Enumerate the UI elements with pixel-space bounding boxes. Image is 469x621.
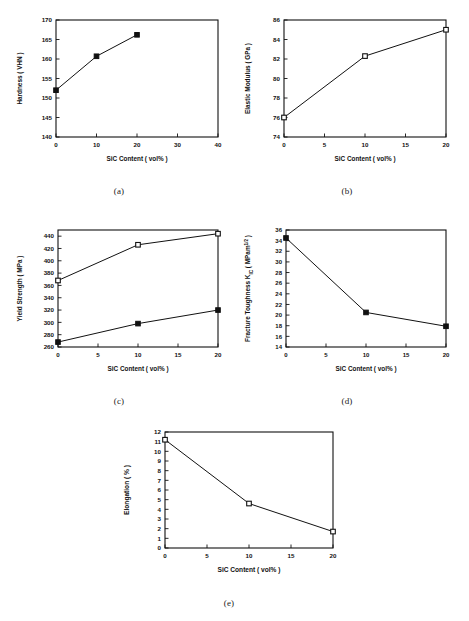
chart-panel-e: 012345678910111205101520SiC Content ( vo… (113, 418, 345, 596)
caption-a: (a) (12, 186, 226, 196)
chart-panel-d: 14161820222426283032343605101520SiC Cont… (240, 218, 454, 393)
svg-text:440: 440 (44, 232, 55, 239)
caption-e: (e) (113, 598, 345, 608)
svg-text:Yield Strength ( MPa ): Yield Strength ( MPa ) (16, 256, 24, 322)
svg-text:20: 20 (275, 312, 282, 318)
chart-d-plot: 14161820222426283032343605101520SiC Cont… (240, 218, 454, 393)
svg-text:155: 155 (42, 75, 53, 82)
svg-text:170: 170 (42, 16, 53, 23)
svg-text:165: 165 (42, 36, 53, 43)
svg-text:78: 78 (273, 94, 280, 101)
svg-text:14: 14 (275, 344, 282, 350)
svg-text:4: 4 (158, 506, 162, 513)
chart-a-svg: 140145150155160165170010203040SiC Conten… (12, 8, 226, 183)
caption-b: (b) (240, 186, 454, 196)
svg-text:150: 150 (42, 94, 53, 101)
svg-text:5: 5 (158, 496, 162, 503)
svg-text:6: 6 (158, 486, 162, 493)
svg-text:5: 5 (323, 141, 327, 148)
svg-text:74: 74 (273, 133, 280, 140)
svg-text:10: 10 (246, 552, 253, 559)
svg-text:0: 0 (284, 352, 288, 358)
svg-text:160: 160 (42, 55, 53, 62)
svg-text:0: 0 (56, 351, 60, 358)
svg-text:8: 8 (158, 467, 162, 474)
svg-text:2: 2 (158, 525, 162, 532)
chart-b-svg: 7476788082848605101520SiC Content ( vol%… (240, 8, 454, 183)
svg-text:145: 145 (42, 114, 53, 121)
svg-text:36: 36 (275, 227, 282, 233)
chart-panel-a: 140145150155160165170010203040SiC Conten… (12, 8, 226, 183)
svg-text:11: 11 (154, 438, 161, 445)
svg-text:40: 40 (215, 141, 222, 148)
svg-text:1: 1 (158, 535, 162, 542)
svg-text:82: 82 (273, 55, 280, 62)
svg-text:380: 380 (44, 269, 55, 276)
svg-text:Hardness ( VHN ): Hardness ( VHN ) (16, 52, 24, 104)
svg-text:20: 20 (443, 352, 450, 358)
svg-text:15: 15 (403, 352, 410, 358)
svg-text:5: 5 (324, 352, 328, 358)
svg-text:5: 5 (205, 552, 209, 559)
figure-sheet: 140145150155160165170010203040SiC Conten… (0, 0, 469, 621)
svg-text:22: 22 (275, 302, 282, 308)
chart-a-plot: 140145150155160165170010203040SiC Conten… (12, 8, 226, 183)
svg-text:360: 360 (44, 282, 55, 289)
svg-text:20: 20 (330, 552, 337, 559)
svg-text:0: 0 (282, 141, 286, 148)
svg-text:84: 84 (273, 36, 280, 43)
svg-text:5: 5 (96, 351, 100, 358)
chart-panel-b: 7476788082848605101520SiC Content ( vol%… (240, 8, 454, 183)
svg-text:SiC Content ( vol% ): SiC Content ( vol% ) (106, 155, 167, 163)
chart-d-svg: 14161820222426283032343605101520SiC Cont… (240, 218, 454, 393)
svg-text:Elastic Modulus ( GPa ): Elastic Modulus ( GPa ) (244, 43, 252, 114)
svg-text:15: 15 (402, 141, 409, 148)
svg-text:10: 10 (154, 448, 161, 455)
svg-text:32: 32 (275, 248, 282, 254)
svg-text:0: 0 (163, 552, 167, 559)
chart-b-plot: 7476788082848605101520SiC Content ( vol%… (240, 8, 454, 183)
svg-text:15: 15 (175, 351, 182, 358)
svg-text:16: 16 (275, 334, 282, 340)
svg-text:7: 7 (158, 477, 162, 484)
chart-e-svg: 012345678910111205101520SiC Content ( vo… (113, 418, 345, 596)
caption-c: (c) (12, 396, 226, 406)
svg-text:280: 280 (44, 331, 55, 338)
svg-text:76: 76 (273, 114, 280, 121)
svg-text:20: 20 (215, 351, 222, 358)
svg-text:260: 260 (44, 343, 55, 350)
svg-text:0: 0 (158, 544, 162, 551)
caption-d: (d) (240, 396, 454, 406)
svg-text:400: 400 (44, 257, 55, 264)
svg-text:30: 30 (174, 141, 181, 148)
svg-text:SiC Content ( vol% ): SiC Content ( vol% ) (217, 566, 280, 574)
chart-e-plot: 012345678910111205101520SiC Content ( vo… (113, 418, 345, 596)
svg-text:15: 15 (288, 552, 295, 559)
svg-text:12: 12 (154, 428, 161, 435)
svg-text:18: 18 (275, 323, 282, 329)
svg-text:10: 10 (362, 141, 369, 148)
svg-text:10: 10 (363, 352, 370, 358)
svg-text:86: 86 (273, 16, 280, 23)
chart-c-plot: 26028030032034036038040042044005101520Si… (12, 218, 226, 393)
svg-text:Elongation ( % ): Elongation ( % ) (123, 465, 131, 515)
svg-text:340: 340 (44, 294, 55, 301)
svg-text:Fracture Toughness KIC ( MPam1: Fracture Toughness KIC ( MPam1/2 ) (244, 235, 254, 342)
svg-text:9: 9 (158, 457, 162, 464)
svg-text:10: 10 (93, 141, 100, 148)
chart-c-svg: 26028030032034036038040042044005101520Si… (12, 218, 226, 393)
svg-text:SiC Content ( vol% ): SiC Content ( vol% ) (107, 365, 168, 373)
svg-text:140: 140 (42, 133, 53, 140)
svg-text:320: 320 (44, 306, 55, 313)
svg-text:300: 300 (44, 319, 55, 326)
svg-text:0: 0 (54, 141, 58, 148)
svg-text:26: 26 (275, 280, 282, 286)
svg-text:80: 80 (273, 75, 280, 82)
svg-text:10: 10 (135, 351, 142, 358)
svg-text:3: 3 (158, 515, 162, 522)
svg-text:30: 30 (275, 259, 282, 265)
svg-text:420: 420 (44, 245, 55, 252)
svg-text:20: 20 (443, 141, 450, 148)
svg-text:28: 28 (275, 270, 282, 276)
svg-text:20: 20 (134, 141, 141, 148)
